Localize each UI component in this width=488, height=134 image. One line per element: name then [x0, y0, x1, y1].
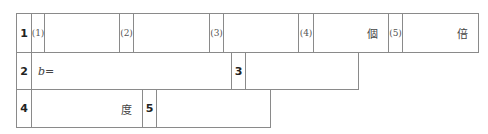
part-3-answer-field[interactable]	[223, 13, 299, 53]
question-3-answer-field[interactable]	[245, 52, 359, 90]
question-1-number: 1	[16, 13, 32, 53]
part-2-answer-field[interactable]	[133, 13, 210, 53]
part-5-answer-field[interactable]: 倍	[402, 13, 479, 53]
question-5-answer-field[interactable]	[156, 89, 271, 128]
part-1-answer-field[interactable]	[44, 13, 120, 53]
question-4-answer-field[interactable]: 度	[31, 89, 143, 128]
question-2-number: 2	[16, 52, 32, 90]
part-2-label: (2)	[119, 13, 134, 53]
part-3-label: (3)	[209, 13, 224, 53]
question-2-answer-field[interactable]: b=	[31, 52, 232, 90]
part-5-label: (5)	[388, 13, 403, 53]
question-4-number: 4	[16, 89, 32, 128]
question-5-number: 5	[142, 89, 157, 128]
question-3-number: 3	[231, 52, 246, 90]
part-1-label: (1)	[31, 13, 45, 53]
part-4-answer-field[interactable]: 個	[313, 13, 389, 53]
part-4-label: (4)	[298, 13, 314, 53]
